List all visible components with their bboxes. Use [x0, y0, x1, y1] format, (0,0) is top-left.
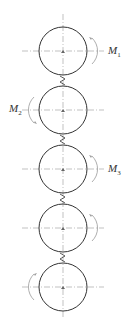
gear-3 — [22, 145, 104, 193]
label-m1: M1 — [108, 45, 121, 59]
label-m3: M3 — [108, 163, 121, 177]
label-m2: M2 — [9, 103, 22, 117]
label-m2-main: M — [9, 102, 18, 114]
label-m3-main: M — [108, 162, 117, 174]
label-m1-sub: 1 — [117, 51, 121, 59]
gear-1 — [22, 27, 104, 75]
center-mark-icon — [61, 50, 65, 53]
label-m3-sub: 3 — [117, 169, 121, 177]
gear-4 — [22, 204, 104, 252]
label-m1-main: M — [108, 44, 117, 56]
mesh-contact-icon — [60, 76, 65, 85]
label-m2-sub: 2 — [18, 109, 22, 117]
